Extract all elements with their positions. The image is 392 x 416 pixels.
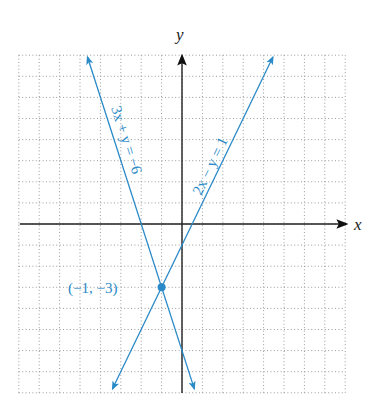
line-2x-minus-y-eq-1 [113, 57, 273, 388]
intersection-point [158, 283, 166, 291]
graph-canvas: x y 3x + y = −6 2x − y = 1 (−1, −3) [0, 0, 392, 416]
y-axis-label: y [174, 25, 184, 44]
intersection-label: (−1, −3) [68, 280, 117, 297]
x-axis-label: x [353, 215, 362, 234]
